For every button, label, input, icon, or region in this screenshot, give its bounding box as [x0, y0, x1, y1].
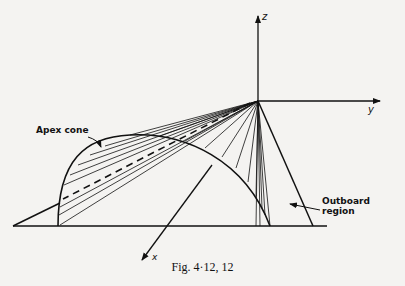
outboard-region-label: Outboard region [322, 196, 405, 216]
apex-cone-curve [58, 135, 270, 226]
z-axis-label: z [262, 11, 267, 22]
dashed-ray [63, 103, 250, 199]
figure-caption: Fig. 4·12, 12 [0, 260, 405, 275]
x-axis [142, 165, 212, 260]
apex-cone-label: Apex cone [36, 125, 88, 135]
y-axis-label: y [368, 104, 374, 115]
wing-flow-diagram [0, 0, 405, 286]
